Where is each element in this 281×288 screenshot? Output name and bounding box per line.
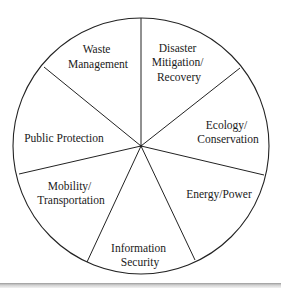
- bottom-border: [0, 283, 281, 288]
- segment-label-disaster: Disaster Mitigation/ Recovery: [152, 42, 207, 84]
- segment-label-public: Public Protection: [24, 132, 104, 144]
- center-point: [140, 145, 143, 148]
- segment-label-energy: Energy/Power: [186, 188, 252, 201]
- pie-diagram: Waste Management Disaster Mitigation/ Re…: [0, 0, 281, 288]
